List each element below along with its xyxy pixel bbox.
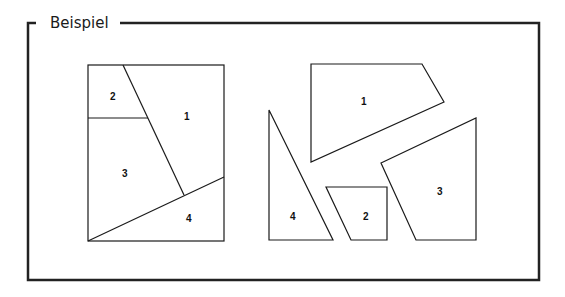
left-label-3: 3 — [122, 168, 128, 179]
diagram-canvas: 2 1 3 4 1 4 2 3 — [0, 0, 565, 297]
left-label-2: 2 — [110, 91, 116, 102]
right-label-1: 1 — [361, 96, 367, 107]
left-label-4: 4 — [186, 213, 192, 224]
right-label-4: 4 — [290, 211, 296, 222]
piece-3 — [381, 118, 476, 240]
piece-2 — [326, 187, 387, 240]
left-label-1: 1 — [184, 111, 190, 122]
frame-title: Beispiel — [44, 13, 115, 35]
right-label-2: 2 — [363, 211, 369, 222]
assembled-rectangle — [88, 65, 224, 241]
piece-1 — [311, 64, 444, 162]
piece-4 — [269, 110, 333, 240]
right-label-3: 3 — [437, 186, 443, 197]
